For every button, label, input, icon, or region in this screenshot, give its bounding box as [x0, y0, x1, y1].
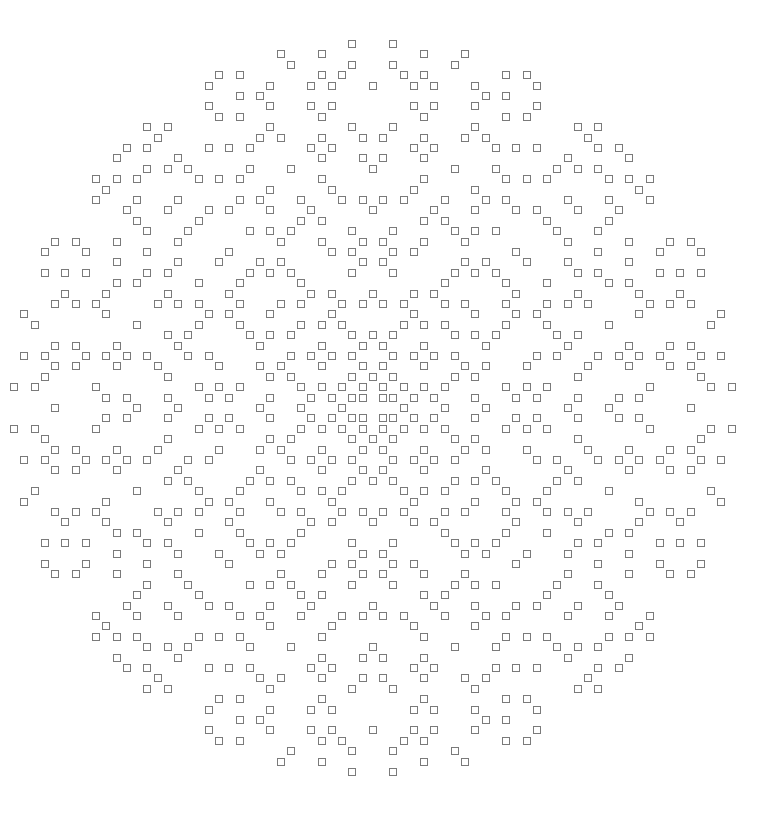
pattern-square	[133, 279, 141, 287]
pattern-square	[277, 258, 285, 266]
pattern-square	[666, 342, 674, 350]
pattern-square	[533, 706, 541, 714]
pattern-square	[635, 498, 643, 506]
pattern-square	[523, 633, 531, 641]
pattern-square	[666, 446, 674, 454]
pattern-square	[143, 227, 151, 235]
pattern-square	[430, 144, 438, 152]
pattern-square	[123, 414, 131, 422]
pattern-square	[307, 206, 315, 214]
pattern-square	[184, 165, 192, 173]
pattern-square	[707, 383, 715, 391]
pattern-square	[225, 310, 233, 318]
pattern-square	[564, 508, 572, 516]
pattern-square	[523, 695, 531, 703]
pattern-square	[430, 352, 438, 360]
pattern-square	[646, 633, 654, 641]
pattern-square	[369, 373, 377, 381]
pattern-square	[389, 227, 397, 235]
pattern-square	[430, 664, 438, 672]
pattern-square	[523, 362, 531, 370]
pattern-square	[236, 279, 244, 287]
pattern-square	[656, 539, 664, 547]
pattern-square	[256, 550, 264, 558]
pattern-square	[492, 643, 500, 651]
pattern-square	[205, 394, 213, 402]
pattern-square	[102, 622, 110, 630]
pattern-square	[205, 414, 213, 422]
pattern-square	[164, 685, 172, 693]
pattern-square	[523, 71, 531, 79]
pattern-square	[297, 196, 305, 204]
pattern-square	[564, 570, 572, 578]
pattern-square	[123, 206, 131, 214]
pattern-square	[574, 414, 582, 422]
pattern-square	[307, 726, 315, 734]
pattern-square	[451, 435, 459, 443]
pattern-square	[338, 612, 346, 620]
pattern-square	[420, 71, 428, 79]
pattern-square	[461, 674, 469, 682]
pattern-square	[215, 695, 223, 703]
pattern-square	[461, 508, 469, 516]
pattern-square	[471, 310, 479, 318]
pattern-square	[246, 643, 254, 651]
pattern-square	[266, 123, 274, 131]
pattern-square	[574, 290, 582, 298]
pattern-square	[420, 238, 428, 246]
pattern-square	[594, 456, 602, 464]
pattern-square	[236, 92, 244, 100]
pattern-square	[266, 414, 274, 422]
pattern-square	[584, 134, 592, 142]
pattern-square	[225, 602, 233, 610]
pattern-square	[635, 310, 643, 318]
pattern-square	[379, 362, 387, 370]
pattern-square	[174, 196, 182, 204]
pattern-square	[338, 300, 346, 308]
pattern-square	[420, 362, 428, 370]
pattern-square	[379, 258, 387, 266]
pattern-square	[594, 352, 602, 360]
pattern-square	[348, 352, 356, 360]
pattern-square	[277, 446, 285, 454]
pattern-square	[584, 362, 592, 370]
pattern-square	[615, 602, 623, 610]
pattern-square	[359, 196, 367, 204]
pattern-square	[256, 446, 264, 454]
pattern-square	[369, 602, 377, 610]
pattern-square	[430, 726, 438, 734]
pattern-square	[482, 258, 490, 266]
pattern-square	[471, 227, 479, 235]
pattern-square	[605, 279, 613, 287]
pattern-square	[266, 331, 274, 339]
pattern-square	[410, 186, 418, 194]
pattern-square	[451, 331, 459, 339]
pattern-square	[277, 238, 285, 246]
pattern-square	[502, 425, 510, 433]
pattern-square	[143, 165, 151, 173]
pattern-square	[164, 394, 172, 402]
pattern-square	[348, 685, 356, 693]
pattern-square	[594, 144, 602, 152]
pattern-square	[430, 518, 438, 526]
pattern-square	[318, 695, 326, 703]
pattern-square	[420, 466, 428, 474]
pattern-square	[666, 362, 674, 370]
pattern-square	[246, 227, 254, 235]
pattern-square	[676, 539, 684, 547]
pattern-square	[236, 113, 244, 121]
pattern-square	[236, 321, 244, 329]
pattern-square	[318, 134, 326, 142]
pattern-square	[174, 300, 182, 308]
pattern-square	[461, 300, 469, 308]
pattern-square	[523, 737, 531, 745]
pattern-square	[441, 321, 449, 329]
pattern-square	[143, 664, 151, 672]
pattern-square	[143, 269, 151, 277]
pattern-square	[441, 425, 449, 433]
pattern-square	[266, 394, 274, 402]
pattern-square	[41, 373, 49, 381]
pattern-square	[328, 498, 336, 506]
pattern-square	[215, 71, 223, 79]
pattern-square	[164, 290, 172, 298]
